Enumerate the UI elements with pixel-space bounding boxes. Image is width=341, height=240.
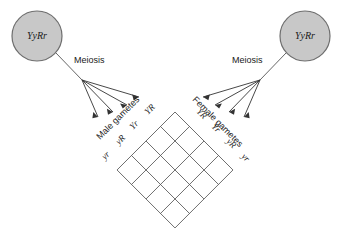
punnett-square-diagram: YyRr Meiosis Male <box>0 0 341 240</box>
female-parent-genotype-label: YyRr <box>295 30 315 41</box>
female-gamete-arrow-2 <box>215 80 260 109</box>
male-gamete-arrow-3 <box>82 80 113 115</box>
female-allele-label-3: yr <box>239 151 252 164</box>
female-allele-labels: YR Yr yR yr <box>195 106 253 164</box>
male-gamete-arrow-2 <box>82 80 127 109</box>
male-meiosis-label: Meiosis <box>74 55 105 65</box>
svg-text:yr: yr <box>99 149 112 162</box>
male-allele-label-0: YR <box>142 102 157 117</box>
male-parent-genotype-label: YyRr <box>27 30 47 41</box>
female-gamete-arrow-1 <box>203 80 260 100</box>
male-parent-group: YyRr <box>12 11 62 61</box>
diagram-canvas: YyRr Meiosis Male <box>0 0 341 240</box>
male-allele-label-3: yr <box>99 149 112 162</box>
female-gamete-arrow-3 <box>229 80 260 115</box>
male-gamete-arrow-4 <box>82 80 98 118</box>
svg-text:Yr: Yr <box>127 118 140 131</box>
female-meiosis-leader-line <box>260 53 286 80</box>
svg-text:YR: YR <box>142 102 157 117</box>
female-gamete-arrow-4 <box>244 80 260 118</box>
female-meiosis-label: Meiosis <box>232 55 263 65</box>
svg-text:yR: yR <box>113 132 128 147</box>
female-parent-group: YyRr <box>280 11 330 61</box>
svg-text:yr: yr <box>239 151 252 164</box>
male-allele-label-2: yR <box>113 132 128 147</box>
male-allele-label-1: Yr <box>127 118 140 131</box>
